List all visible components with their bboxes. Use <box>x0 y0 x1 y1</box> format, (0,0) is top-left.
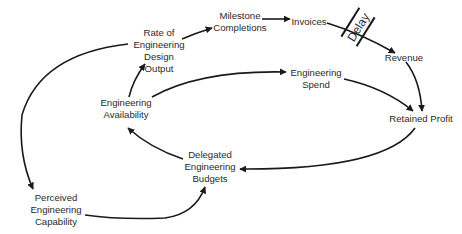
node-perceived-engineering-capability: Perceived Engineering Capability <box>28 192 84 228</box>
node-label-line: Output <box>129 63 189 75</box>
node-label-line: Budgets <box>181 173 239 185</box>
causal-loop-diagram: Delay Rate of Engineering Design Output … <box>0 0 462 234</box>
node-label-line: Retained Profit <box>384 113 458 125</box>
edge-spend-to-retained-profit <box>344 79 413 111</box>
node-label-line: Availability <box>97 109 155 121</box>
edge-availability-to-spend <box>152 72 286 97</box>
edge-retained-profit-to-budgets <box>240 128 415 169</box>
node-label-line: Delegated <box>181 149 239 161</box>
node-label-line: Rate of <box>129 27 189 39</box>
node-label-line: Perceived <box>28 192 84 204</box>
node-label-line: Engineering <box>28 204 84 216</box>
node-milestone-completions: Milestone Completions <box>212 10 268 34</box>
node-label-line: Engineering <box>287 67 345 79</box>
edge-revenue-to-retained-profit <box>406 62 422 111</box>
node-label-line: Revenue <box>382 52 426 64</box>
node-label-line: Engineering <box>97 97 155 109</box>
node-revenue: Revenue <box>382 52 426 64</box>
node-engineering-availability: Engineering Availability <box>97 97 155 121</box>
node-label-line: Invoices <box>290 16 328 28</box>
node-invoices: Invoices <box>290 16 328 28</box>
node-label-line: Engineering <box>181 161 239 173</box>
node-rate-of-engineering-design-output: Rate of Engineering Design Output <box>129 27 189 75</box>
node-engineering-spend: Engineering Spend <box>287 67 345 91</box>
edge-budgets-to-availability <box>128 128 183 159</box>
node-label-line: Capability <box>28 216 84 228</box>
node-delegated-engineering-budgets: Delegated Engineering Budgets <box>181 149 239 185</box>
node-label-line: Engineering <box>129 39 189 51</box>
node-label-line: Completions <box>212 22 268 34</box>
node-retained-profit: Retained Profit <box>384 113 458 125</box>
node-label-line: Design <box>129 51 189 63</box>
edge-perceived-to-budgets <box>85 187 205 219</box>
node-label-line: Milestone <box>212 10 268 22</box>
node-label-line: Spend <box>287 79 345 91</box>
